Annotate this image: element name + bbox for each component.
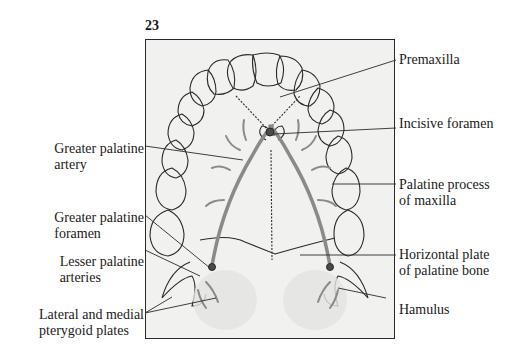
label-horizontal-plate: Horizontal plate of palatine bone <box>399 247 490 279</box>
label-incisive-foramen: Incisive foramen <box>399 116 493 132</box>
leader-greater-palatine-foramen <box>145 215 210 268</box>
tooth <box>227 55 256 90</box>
label-premaxilla: Premaxilla <box>399 52 460 68</box>
label-greater-palatine-artery: Greater palatine artery <box>54 141 144 173</box>
label-lesser-palatine-arteries: Lesser palatine arteries <box>60 254 144 286</box>
label-hamulus: Hamulus <box>399 302 450 318</box>
leader-incisive-foramen <box>274 128 396 134</box>
label-greater-palatine-foramen: Greater palatine foramen <box>54 210 144 242</box>
label-palatine-process: Palatine process of maxilla <box>399 177 490 209</box>
leader-greater-palatine-artery <box>145 146 243 160</box>
label-pterygoid-plates: Lateral and medial pterygoid plates <box>39 307 144 339</box>
